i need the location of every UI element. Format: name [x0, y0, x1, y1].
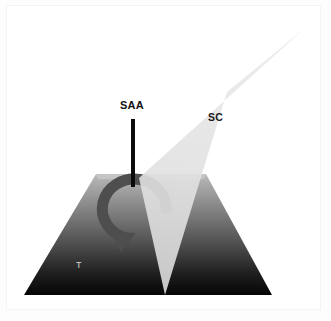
- diagram-scene: [0, 0, 331, 321]
- figure-root: SAA SC T: [0, 0, 331, 321]
- label-sc: SC: [208, 112, 223, 123]
- label-saa: SAA: [120, 100, 144, 111]
- label-t: T: [76, 261, 82, 270]
